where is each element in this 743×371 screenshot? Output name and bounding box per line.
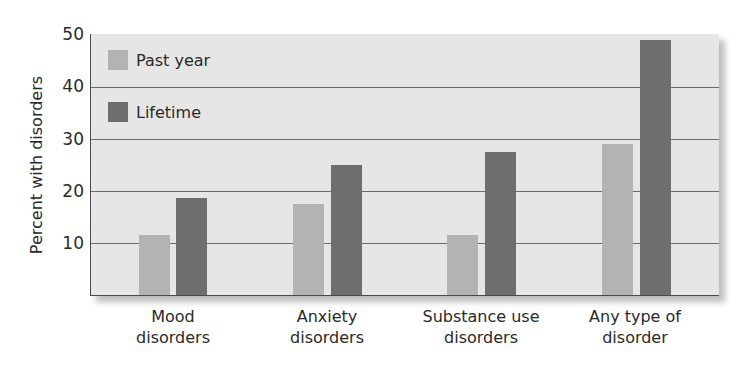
legend-swatch-past-year	[108, 50, 128, 70]
gridline-30	[91, 139, 719, 140]
bar-substance-past-year	[447, 235, 478, 295]
bar-mood-past-year	[139, 235, 170, 295]
x-label-mood-line1: Mood	[98, 306, 248, 327]
legend-swatch-lifetime	[108, 102, 128, 122]
legend-item-lifetime: Lifetime	[108, 102, 201, 122]
x-label-any-type-line1: Any type of	[560, 306, 710, 327]
y-tick-20: 20	[44, 183, 84, 200]
bar-any-past-year	[602, 144, 633, 295]
x-label-anxiety-line2: disorders	[252, 327, 402, 348]
x-label-substance: Substance use disorders	[406, 306, 556, 348]
bar-substance-lifetime	[485, 152, 516, 295]
y-tick-40: 40	[44, 78, 84, 95]
legend-label-lifetime: Lifetime	[136, 103, 201, 122]
y-tick-10: 10	[44, 235, 84, 252]
legend-label-past-year: Past year	[136, 51, 210, 70]
x-label-substance-line1: Substance use	[406, 306, 556, 327]
bar-anxiety-past-year	[293, 204, 324, 295]
x-label-any-type-line2: disorder	[560, 327, 710, 348]
legend-item-past-year: Past year	[108, 50, 210, 70]
gridline-40	[91, 87, 719, 88]
x-label-any-type: Any type of disorder	[560, 306, 710, 348]
bar-mood-lifetime	[176, 198, 207, 295]
x-label-substance-line2: disorders	[406, 327, 556, 348]
y-tick-50: 50	[44, 26, 84, 43]
plot-area: Past year Lifetime	[90, 34, 719, 296]
bar-chart: Percent with disorders 50 40 30 20 10 Pa…	[0, 0, 743, 371]
y-tick-30: 30	[44, 131, 84, 148]
bar-anxiety-lifetime	[331, 165, 362, 295]
x-label-anxiety: Anxiety disorders	[252, 306, 402, 348]
x-label-mood-line2: disorders	[98, 327, 248, 348]
y-axis-ticks: 50 40 30 20 10	[42, 0, 84, 371]
x-label-anxiety-line1: Anxiety	[252, 306, 402, 327]
x-label-mood: Mood disorders	[98, 306, 248, 348]
bar-any-lifetime	[640, 40, 671, 295]
